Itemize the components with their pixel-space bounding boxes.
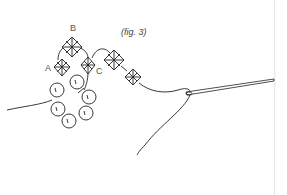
bicone-a: [54, 59, 70, 76]
thread-b-c: [80, 48, 88, 58]
bead-diagram: B A C (fig. 3): [0, 0, 287, 195]
thread-chain-link: [121, 66, 127, 71]
round-bead: [51, 102, 65, 116]
round-bead: [70, 75, 84, 89]
bicone-c: [81, 57, 95, 74]
bicone-b: [62, 37, 82, 57]
label-a: A: [45, 63, 51, 73]
round-bead-ring: [50, 75, 96, 128]
bicone-chain-2: [125, 69, 141, 85]
thread-c-down: [84, 72, 88, 90]
bicone-chain-1: [104, 50, 124, 70]
round-bead: [79, 106, 93, 120]
thread-tail-right: [137, 95, 190, 155]
needle-icon: [186, 79, 274, 95]
round-bead: [82, 90, 96, 104]
thread-to-needle: [139, 83, 190, 92]
round-bead: [50, 83, 64, 97]
thread-tail-left: [7, 100, 52, 110]
label-c: C: [96, 66, 103, 76]
figure-caption: (fig. 3): [121, 27, 147, 37]
round-bead: [62, 114, 76, 128]
label-b: B: [70, 23, 76, 33]
